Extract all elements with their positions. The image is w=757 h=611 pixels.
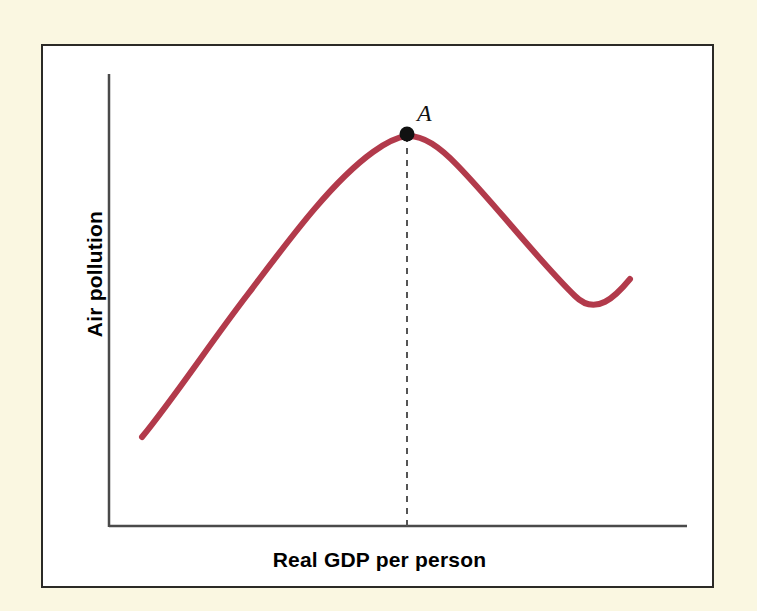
y-axis-title: Air pollution	[83, 179, 107, 369]
x-axis-title: Real GDP per person	[43, 548, 716, 572]
air-pollution-curve	[142, 136, 630, 437]
page-background: A Air pollution Real GDP per person	[0, 0, 757, 611]
peak-point-label: A	[417, 101, 432, 125]
peak-marker-dot	[400, 127, 415, 142]
figure-frame: A Air pollution Real GDP per person	[41, 44, 714, 588]
chart-canvas	[43, 46, 716, 590]
plot-area: A Air pollution Real GDP per person	[43, 46, 716, 590]
